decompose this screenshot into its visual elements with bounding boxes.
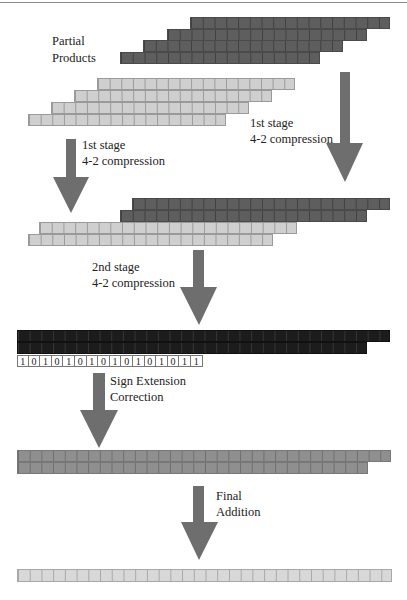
arrow-down-icon <box>178 248 220 328</box>
bit-cell: 1 <box>179 355 191 367</box>
stage2-row-2 <box>17 342 367 354</box>
sign-corrected-row-2 <box>17 462 368 474</box>
bit-cell: 1 <box>156 355 168 367</box>
bit-cell: 0 <box>121 355 133 367</box>
pp-dark-row-1 <box>190 17 390 29</box>
sign-correction-bits: 1 0 1 0 1 0 1 0 1 0 1 0 1 0 1 1 <box>17 355 203 367</box>
bit-cell: 1 <box>133 355 145 367</box>
stage1-right-label-2: 4-2 compression <box>250 131 333 147</box>
partial-products-label-2: Products <box>52 50 96 66</box>
bit-cell: 1 <box>87 355 99 367</box>
bit-cell: 0 <box>98 355 110 367</box>
bit-cell: 0 <box>145 355 157 367</box>
stage1-dark-row-2 <box>120 210 367 222</box>
bit-cell: 1 <box>110 355 122 367</box>
bit-cell: 0 <box>52 355 64 367</box>
arrow-down-icon <box>320 70 370 185</box>
pp-light-row-4 <box>28 114 226 126</box>
final-addition-label-1: Final <box>216 488 242 504</box>
sign-correction-label-2: Correction <box>110 389 163 405</box>
stage1-left-label-2: 4-2 compression <box>82 153 165 169</box>
stage1-light-row-1 <box>39 222 297 234</box>
partial-products-label-1: Partial <box>52 33 85 49</box>
bit-cell: 0 <box>75 355 87 367</box>
pp-light-row-3 <box>51 102 249 114</box>
bit-cell: 1 <box>63 355 75 367</box>
final-result-row <box>17 569 392 582</box>
stage1-left-label-1: 1st stage <box>82 137 125 153</box>
bit-cell: 1 <box>40 355 52 367</box>
pp-dark-row-4 <box>120 52 320 64</box>
sign-corrected-row-1 <box>17 450 391 462</box>
bit-cell: 0 <box>168 355 180 367</box>
pp-light-row-2 <box>74 90 272 102</box>
bit-cell: 1 <box>17 355 29 367</box>
stage2-label-1: 2nd stage <box>92 259 140 275</box>
stage1-right-label-1: 1st stage <box>250 115 293 131</box>
stage2-row-1 <box>17 330 390 342</box>
stage1-light-row-2 <box>28 234 273 246</box>
arrow-down-icon <box>179 484 221 564</box>
pp-light-row-1 <box>97 78 295 90</box>
final-addition-label-2: Addition <box>216 504 260 520</box>
stage2-label-2: 4-2 compression <box>92 275 175 291</box>
sign-correction-label-1: Sign Extension <box>110 373 186 389</box>
top-border-line <box>0 2 407 3</box>
bit-cell: 1 <box>191 355 203 367</box>
pp-dark-row-3 <box>143 40 343 52</box>
stage1-dark-row-1 <box>132 198 390 210</box>
bit-cell: 0 <box>29 355 41 367</box>
